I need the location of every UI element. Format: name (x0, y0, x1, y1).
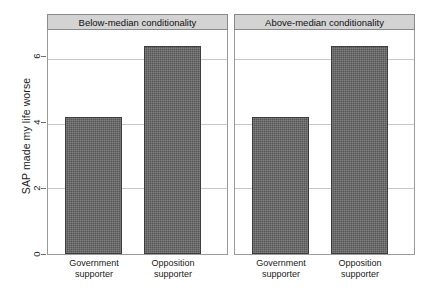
y-tick-mark-0 (41, 254, 46, 255)
x-tick-label-above-median-opposition: Opposition supporter (315, 258, 405, 280)
x-label-line-1: Government (49, 258, 139, 269)
bar-above-median-government (252, 117, 309, 254)
x-label-line-2: supporter (236, 269, 326, 280)
panel-title-below-median: Below-median conditionality (48, 15, 227, 31)
bar-below-median-opposition (144, 46, 201, 254)
y-tick-mark-2 (41, 188, 46, 189)
bar-below-median-government (65, 117, 122, 254)
y-tick-mark-6 (41, 56, 46, 57)
x-label-line-2: supporter (49, 269, 139, 280)
panel-above-median: Above-median conditionality (234, 14, 415, 255)
x-label-line-1: Opposition (128, 258, 218, 269)
plot-area-below-median (47, 30, 228, 255)
panel-header-above-median: Above-median conditionality (234, 14, 415, 30)
bar-chart-figure: SAP made my life worse 6 4 2 0 Below-med… (0, 0, 437, 294)
x-tick-label-below-median-government: Government supporter (49, 258, 139, 280)
x-tick-label-below-median-opposition: Opposition supporter (128, 258, 218, 280)
panel-header-below-median: Below-median conditionality (47, 14, 228, 30)
panel-title-above-median: Above-median conditionality (235, 15, 414, 31)
x-label-line-2: supporter (128, 269, 218, 280)
x-tick-label-above-median-government: Government supporter (236, 258, 326, 280)
x-label-line-1: Opposition (315, 258, 405, 269)
x-label-line-2: supporter (315, 269, 405, 280)
y-tick-mark-4 (41, 122, 46, 123)
panel-below-median: Below-median conditionality (47, 14, 228, 255)
bar-above-median-opposition (331, 46, 388, 254)
x-label-line-1: Government (236, 258, 326, 269)
plot-area-above-median (234, 30, 415, 255)
